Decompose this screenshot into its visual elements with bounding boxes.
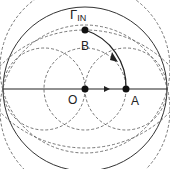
- label-a: A: [131, 95, 139, 107]
- smith-chart-diagram: [0, 0, 170, 169]
- point-o: [82, 86, 89, 93]
- dashed-circles: [0, 0, 170, 169]
- label-b: B: [81, 40, 89, 52]
- gamma-in-label: ΓIN: [70, 8, 86, 23]
- arrow-o-to-a-icon: [104, 86, 110, 92]
- point-b: [82, 27, 89, 34]
- gamma-subscript: IN: [77, 13, 86, 23]
- label-o: O: [68, 94, 77, 106]
- point-a: [123, 86, 130, 93]
- arc-a-to-b: [85, 30, 126, 89]
